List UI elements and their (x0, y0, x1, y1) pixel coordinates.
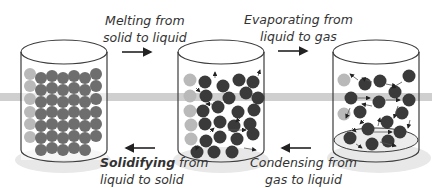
solidifying-bold-word: Solidifying (100, 155, 175, 170)
condensing-label-line1: Condensing from (250, 154, 357, 171)
melting-label-line2: solid to liquid (103, 29, 187, 46)
diagram-graphic (0, 0, 432, 188)
melting-label-line1: Melting from (103, 12, 187, 29)
states-of-matter-diagram: Melting from solid to liquid Evaporating… (0, 0, 432, 188)
evaporating-label-line2: liquid to gas (244, 28, 353, 45)
solid-container (15, 40, 111, 173)
condensing-label-line2: gas to liquid (250, 171, 357, 188)
evaporating-label-line1: Evaporating from (244, 11, 353, 28)
solidifying-label-line2: liquid to solid (100, 171, 208, 188)
solidifying-label-line1: Solidifying from (100, 154, 208, 171)
solidifying-label-rest: from (175, 155, 208, 170)
liquid-particles (184, 74, 265, 159)
condensing-label: Condensing from gas to liquid (250, 154, 357, 188)
melting-label: Melting from solid to liquid (103, 12, 187, 46)
evaporating-label: Evaporating from liquid to gas (244, 11, 353, 45)
solidifying-label: Solidifying from liquid to solid (100, 154, 208, 188)
